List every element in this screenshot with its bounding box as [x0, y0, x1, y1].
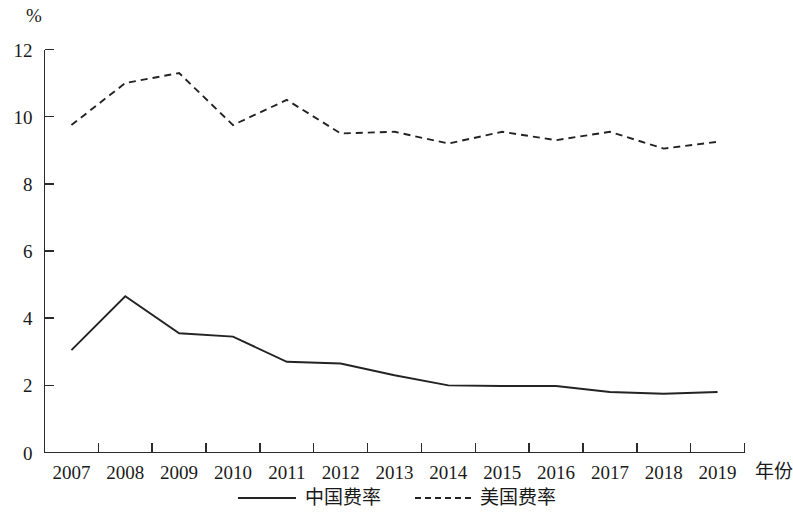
series-line-china	[71, 296, 717, 393]
x-tick-label: 2017	[591, 462, 629, 483]
y-tick-label: 6	[23, 241, 33, 262]
x-tick-label: 2008	[106, 462, 144, 483]
legend-label-usa: 美国费率	[480, 488, 556, 507]
x-tick-label: 2010	[214, 462, 252, 483]
legend-label-china: 中国费率	[305, 488, 381, 507]
legend-swatch-dashed-icon	[415, 497, 471, 499]
legend-swatch-solid-icon	[238, 497, 296, 499]
y-axis-ticks	[45, 50, 54, 386]
chart-container: % 024681012 2007200820092010201120122013…	[0, 0, 793, 521]
y-tick-label: 2	[23, 375, 33, 396]
x-tick-label: 2019	[699, 462, 737, 483]
x-tick-label: 2009	[160, 462, 198, 483]
x-tick-label: 2016	[537, 462, 575, 483]
y-axis-tick-labels: 024681012	[14, 40, 34, 464]
x-axis-tick-labels: 2007200820092010201120122013201420152016…	[52, 462, 736, 483]
legend-item-china: 中国费率	[238, 488, 381, 507]
series-line-usa	[71, 73, 717, 149]
y-axis-unit-label: %	[26, 5, 42, 26]
x-tick-label: 2013	[376, 462, 414, 483]
y-tick-label: 8	[23, 174, 33, 195]
data-series-group	[71, 73, 717, 394]
x-axis-label: 年份	[755, 461, 793, 482]
x-axis-ticks	[45, 443, 745, 453]
x-tick-label: 2018	[645, 462, 683, 483]
line-chart-plot: % 024681012 2007200820092010201120122013…	[0, 0, 793, 521]
x-tick-label: 2015	[483, 462, 521, 483]
x-tick-label: 2007	[52, 462, 90, 483]
y-tick-label: 12	[14, 40, 33, 61]
x-tick-label: 2011	[268, 462, 305, 483]
y-tick-label: 10	[14, 107, 33, 128]
y-tick-label: 4	[23, 308, 33, 329]
legend-item-usa: 美国费率	[415, 488, 556, 507]
x-tick-label: 2014	[429, 462, 468, 483]
x-tick-label: 2012	[322, 462, 360, 483]
y-tick-label: 0	[23, 443, 33, 464]
chart-legend: 中国费率 美国费率	[0, 488, 793, 507]
